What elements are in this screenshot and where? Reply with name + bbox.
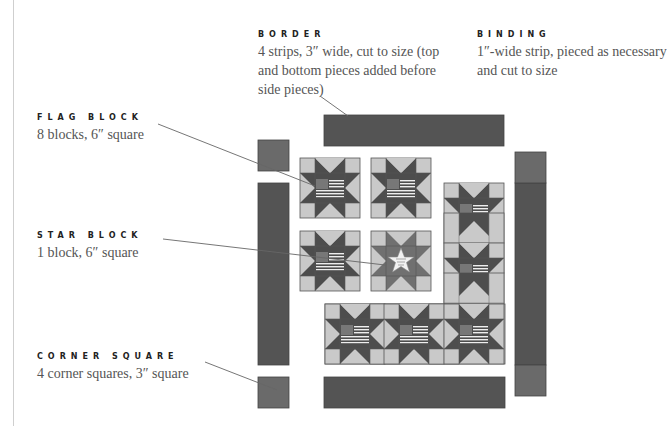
leader-line-corner-square <box>205 362 277 390</box>
leader-line-border <box>320 96 348 116</box>
leader-line-flag-block <box>158 124 315 186</box>
flag-block <box>300 158 360 218</box>
border-strip-bottom <box>324 377 505 408</box>
border-strip-right <box>515 183 546 365</box>
flag-block <box>371 158 431 218</box>
flag-block <box>444 304 504 364</box>
corner-square-bottom-left <box>258 377 289 408</box>
corner-square-bottom-right <box>515 365 546 396</box>
corner-square-top-right <box>515 152 546 183</box>
border-strip-left <box>258 183 289 365</box>
border-strip-top <box>324 115 504 146</box>
corner-square-top-left <box>258 140 289 171</box>
star-block <box>371 231 431 291</box>
